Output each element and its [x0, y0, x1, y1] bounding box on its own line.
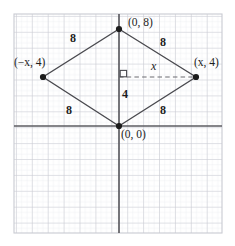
side-label-bottom-left: 8 — [66, 104, 72, 116]
vertex-label-left: (−x, 4) — [14, 57, 45, 69]
vertex-dot-right — [193, 74, 199, 80]
vertex-dot-top — [116, 26, 122, 32]
vertex-label-top: (0, 8) — [128, 17, 153, 29]
side-label-top-right: 8 — [160, 36, 166, 48]
vertex-label-right: (x, 4) — [194, 57, 219, 69]
vertex-label-bottom: (0, 0) — [121, 129, 146, 141]
height-label: 4 — [122, 88, 128, 100]
vertex-dot-left — [40, 74, 46, 80]
diagonal-half-label: x — [151, 60, 156, 72]
side-label-bottom-right: 8 — [160, 104, 166, 116]
figure-canvas — [0, 0, 235, 246]
side-label-top-left: 8 — [70, 32, 76, 44]
rhombus-coordinate-figure: (0, 8) (x, 4) (−x, 4) (0, 0) 8 8 8 8 x 4 — [0, 0, 235, 246]
